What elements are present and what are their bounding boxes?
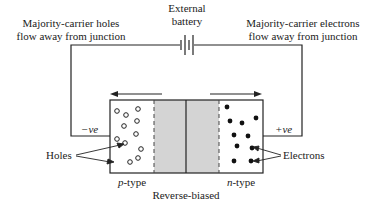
p-type-label: p-type — [117, 176, 146, 188]
hole-carrier — [124, 113, 129, 118]
positive-terminal-label: +ve — [275, 123, 292, 135]
electron-carrier — [225, 105, 230, 110]
pn-junction-diagram: External battery Majority-carrier holes … — [0, 0, 373, 208]
electron-carrier — [235, 144, 240, 149]
electrons-flow-caption-line1: Majority-carrier electrons — [246, 17, 359, 29]
electron-carrier — [240, 121, 245, 126]
holes-label: Holes — [46, 149, 72, 161]
hole-carrier — [128, 160, 133, 165]
battery-icon — [181, 35, 193, 55]
negative-terminal-label: −ve — [81, 123, 98, 135]
hole-carrier — [135, 119, 140, 124]
electrons-group — [225, 105, 259, 164]
hole-carrier — [139, 147, 144, 152]
hole-carrier — [136, 107, 141, 112]
hole-carrier — [122, 124, 127, 129]
electron-carrier — [246, 134, 251, 139]
right-flow-arrow — [210, 91, 262, 97]
left-flow-arrow — [110, 91, 162, 97]
reverse-biased-label: Reverse-biased — [152, 189, 220, 201]
battery-label-line1: External — [168, 2, 205, 14]
n-type-label: n-type — [227, 176, 255, 188]
hole-carrier — [115, 109, 120, 114]
holes-pointer-arrows — [76, 143, 124, 164]
electron-carrier — [254, 116, 259, 121]
holes-flow-caption-line2: flow away from junction — [16, 30, 126, 42]
electron-carrier — [232, 133, 237, 138]
holes-group — [115, 107, 144, 165]
hole-carrier — [115, 137, 120, 142]
electron-carrier — [228, 119, 233, 124]
electrons-flow-caption-line2: flow away from junction — [248, 30, 358, 42]
electrons-pointer-arrows — [253, 146, 281, 163]
hole-carrier — [134, 132, 139, 137]
hole-carrier — [136, 156, 141, 161]
battery-label-line2: battery — [172, 15, 203, 27]
electrons-label: Electrons — [283, 149, 325, 161]
holes-flow-caption-line1: Majority-carrier holes — [23, 17, 120, 29]
electron-carrier — [232, 159, 237, 164]
